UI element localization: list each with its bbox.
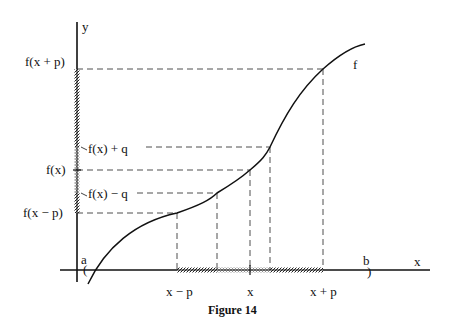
label-x: x (247, 285, 254, 298)
curve-label: f (353, 58, 357, 71)
diagram-canvas (0, 0, 457, 325)
interval-right-bracket: ) (367, 265, 371, 278)
curve-f (88, 44, 365, 284)
label-f-x-plus-q: f(x) + q (88, 142, 128, 155)
label-x-plus-p: x + p (310, 285, 337, 298)
x-axis-label: x (414, 255, 421, 268)
interval-left-bracket: ( (83, 263, 87, 276)
y-axis-label: y (82, 20, 89, 33)
figure-caption: Figure 14 (208, 303, 257, 318)
label-f-x-minus-p: f(x − p) (23, 206, 63, 219)
label-f-x: f(x) (46, 163, 66, 176)
label-x-minus-p: x − p (166, 285, 193, 298)
label-f-x-minus-q: f(x) − q (88, 187, 128, 200)
label-f-x-plus-p: f(x + p) (25, 55, 65, 68)
